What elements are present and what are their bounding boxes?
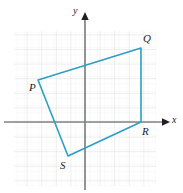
y-axis-label: y <box>73 6 77 16</box>
x-axis-label: x <box>172 115 176 125</box>
vertex-label-s: S <box>60 160 66 171</box>
vertex-label-r: R <box>142 126 149 137</box>
y-axis-arrowhead <box>81 12 88 20</box>
vertex-label-p: P <box>29 82 36 93</box>
plot-canvas <box>0 0 183 193</box>
vertex-label-q: Q <box>143 33 151 44</box>
coordinate-plane-figure: y x P Q R S <box>0 0 183 193</box>
x-axis-arrowhead <box>162 118 170 125</box>
